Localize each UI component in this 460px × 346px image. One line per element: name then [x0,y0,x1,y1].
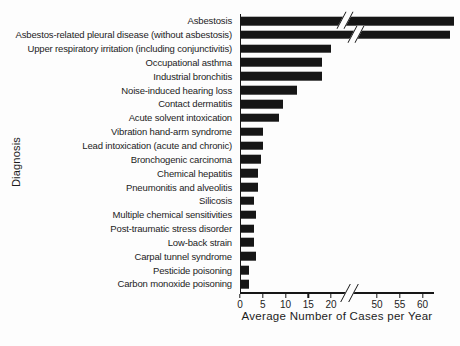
category-label: Lead intoxication (acute and chronic) [0,140,236,151]
category-label: Acute solvent intoxication [0,112,236,123]
bar [240,30,450,39]
x-axis-tick [262,294,263,299]
category-label: Multiple chemical sensitivities [0,209,236,220]
bar-track [236,56,460,70]
bar-track [236,83,460,97]
chart-row: Acute solvent intoxication [0,111,460,125]
bar-track [236,139,460,153]
y-axis-line [240,14,242,293]
x-axis-tick-label: 55 [394,299,405,310]
bar-break-mark [336,12,353,29]
category-label-text: Acute solvent intoxication [129,112,232,123]
bar [240,280,249,289]
bar-track [236,208,460,222]
chart-row: Pneumonitis and alveolitis [0,180,460,194]
category-label-text: Asbestos-related pleural disease (withou… [16,29,232,40]
chart-row: Multiple chemical sensitivities [0,208,460,222]
x-axis-tick-label: 0 [237,299,243,310]
bar [240,114,279,123]
chart-row: Noise-induced hearing loss [0,83,460,97]
category-label-text: Noise-induced hearing loss [121,85,232,96]
bar [240,224,254,233]
chart-row: Industrial bronchitis [0,69,460,83]
category-label-text: Carbon monoxide poisoning [117,278,232,289]
chart-row: Silicosis [0,194,460,208]
chart-row: Occupational asthma [0,56,460,70]
bar-track [236,28,460,42]
chart-row: Low-back strain [0,236,460,250]
chart-row: Bronchogenic carcinoma [0,152,460,166]
x-axis-tick [399,294,400,299]
x-axis-tick-label: 15 [303,299,314,310]
x-axis-tick [239,294,240,299]
bar-rows: AsbestosisAsbestos-related pleural disea… [0,14,460,291]
category-label: Vibration hand-arm syndrome [0,126,236,137]
category-label-text: Upper respiratory irritation (including … [27,43,232,54]
bar [240,238,254,247]
x-axis-tick [308,294,309,299]
bar-track [236,42,460,56]
category-label: Chemical hepatitis [0,168,236,179]
bar-track [236,180,460,194]
bar [240,197,254,206]
chart-row: Pesticide poisoning [0,263,460,277]
category-label: Noise-induced hearing loss [0,85,236,96]
category-label: Carpal tunnel syndrome [0,251,236,262]
category-label-text: Contact dermatitis [158,98,232,109]
x-axis-title: Average Number of Cases per Year [240,310,434,322]
category-label: Low-back strain [0,237,236,248]
bar-track [236,97,460,111]
category-label-text: Post-traumatic stress disorder [110,223,232,234]
category-label: Bronchogenic carcinoma [0,154,236,165]
category-label-text: Silicosis [199,195,232,206]
bar-track [236,222,460,236]
x-axis-tick-label: 60 [417,299,428,310]
category-label: Industrial bronchitis [0,71,236,82]
chart-row: Asbestos-related pleural disease (withou… [0,28,460,42]
category-label-text: Chemical hepatitis [157,168,232,179]
bar [240,44,331,53]
chart-row: Carpal tunnel syndrome [0,249,460,263]
category-label: Silicosis [0,195,236,206]
category-label: Post-traumatic stress disorder [0,223,236,234]
bar-track [236,194,460,208]
bar [240,72,322,81]
category-label-text: Industrial bronchitis [153,71,232,82]
bar-track [236,125,460,139]
bar [240,155,261,164]
bar [240,58,322,67]
chart-row: Upper respiratory irritation (including … [0,42,460,56]
bar [240,183,258,192]
chart-row: Chemical hepatitis [0,166,460,180]
bar [240,169,258,178]
category-label-text: Bronchogenic carcinoma [131,154,232,165]
x-axis-tick [422,294,423,299]
category-label: Occupational asthma [0,57,236,68]
bar-chart-figure: Diagnosis AsbestosisAsbestos-related ple… [0,0,460,346]
category-label-text: Pesticide poisoning [153,265,232,276]
chart-row: Asbestosis [0,14,460,28]
x-axis-tick [330,294,331,299]
chart-row: Vibration hand-arm syndrome [0,125,460,139]
bar [240,141,263,150]
bar-track [236,69,460,83]
chart-row: Post-traumatic stress disorder [0,222,460,236]
category-label-text: Pneumonitis and alveolitis [126,182,232,193]
bar-track [236,236,460,250]
bar [240,127,263,136]
category-label-text: Carpal tunnel syndrome [134,251,232,262]
bar-track [236,14,460,28]
bar [240,252,256,261]
bar [240,210,256,219]
bar [240,86,297,95]
category-label: Contact dermatitis [0,98,236,109]
bar-break-mark [347,26,364,43]
bar-track [236,166,460,180]
chart-row: Lead intoxication (acute and chronic) [0,139,460,153]
bar [240,17,454,26]
category-label: Pneumonitis and alveolitis [0,182,236,193]
chart-row: Carbon monoxide poisoning [0,277,460,291]
x-axis-tick-label: 10 [280,299,291,310]
category-label-text: Asbestosis [188,15,232,26]
bar [240,100,283,109]
